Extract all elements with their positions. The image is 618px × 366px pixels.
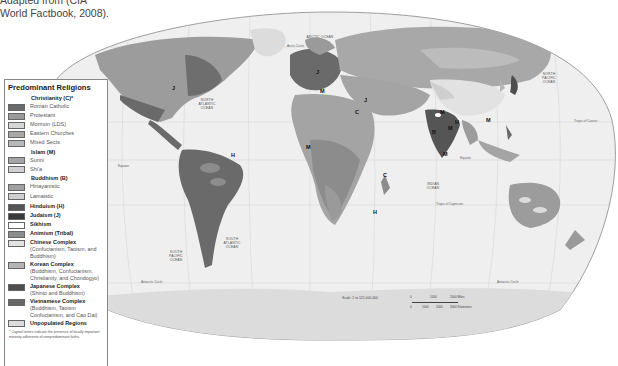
minority-letter: C <box>355 109 359 115</box>
scale-mile-tick: 2000 Miles <box>450 295 465 299</box>
legend-sublabel: (Buddhism, Taoism Confucianism, and Cao … <box>30 305 104 318</box>
legend-sublabel: (Confucianism, Taoism, and Buddhism) <box>30 246 104 259</box>
legend-swatch <box>8 320 25 327</box>
label-tropic-of-cancer: Tropic of Cancer <box>574 119 597 123</box>
legend-swatch <box>8 222 25 229</box>
legend-label: Protestant <box>30 112 55 119</box>
legend-swatch <box>8 204 25 211</box>
legend-item: Lamaistic <box>8 193 104 201</box>
map-scale: Scale: 1 to 121,000,000 0 1000 2000 Mile… <box>342 294 482 314</box>
ocean-label-arctic: ARCTIC OCEAN <box>306 35 334 39</box>
legend-swatch <box>8 122 25 129</box>
legend-item: Hinayanistic <box>8 183 104 191</box>
legend-label: Chinese Complex (Confucianism, Taoism, a… <box>30 239 104 259</box>
minority-letter: J <box>172 85 175 91</box>
legend-label-text: Chinese Complex <box>30 239 76 245</box>
legend-label: Unpopulated Regions <box>30 320 87 327</box>
legend-item: Sunni <box>8 157 104 165</box>
legend-label: Judaism (J) <box>30 212 61 219</box>
legend-label: Sunni <box>30 157 44 164</box>
legend-item-chinese-complex: Chinese Complex (Confucianism, Taoism, a… <box>8 239 104 259</box>
legend-label: Hinayanistic <box>30 183 60 190</box>
legend-label: Hinduism (H) <box>30 203 64 210</box>
legend-swatch <box>8 213 25 220</box>
ocean-label-south-pacific: SOUTH PACIFIC OCEAN <box>165 250 187 262</box>
legend-label: Vietnamese Complex (Buddhism, Taoism Con… <box>30 298 104 318</box>
legend-sublabel: (Buddhism, Confucianism, Christianity, a… <box>30 268 104 281</box>
legend-item: Protestant <box>8 112 104 120</box>
legend-label-text: Vietnamese Complex <box>30 298 85 304</box>
legend-item-hinduism: Hinduism (H) <box>8 203 104 211</box>
legend-label: Eastern Churches <box>30 130 74 137</box>
legend-group-islam: Islam (M) <box>31 149 104 155</box>
minority-letter: C <box>383 172 387 178</box>
legend-swatch <box>8 113 25 120</box>
map-legend: Predominant Religions Christianity (C)* … <box>4 79 108 366</box>
scale-ratio: Scale: 1 to 121,000,000 <box>342 296 378 300</box>
legend-item-judaism: Judaism (J) <box>8 212 104 220</box>
scale-mile-tick: 0 <box>410 295 412 299</box>
legend-swatch <box>8 262 25 269</box>
legend-swatch <box>8 140 25 147</box>
minority-letter: H <box>231 152 235 158</box>
caption-line-2: World Factbook, 2008). <box>0 7 110 20</box>
legend-swatch <box>8 231 25 238</box>
minority-letter: M <box>320 88 325 94</box>
minority-letter: H <box>373 209 377 215</box>
legend-label: Mixed Sects <box>30 139 60 146</box>
legend-label: Shi'a <box>30 166 42 173</box>
legend-label-text: Japanese Complex <box>30 283 80 289</box>
legend-label: Japanese Complex (Shinto and Buddhism) <box>30 283 85 297</box>
legend-item-sikhism: Sikhism <box>8 221 104 229</box>
minority-letter: J <box>364 97 367 103</box>
scale-km-tick: 3000 Kilometers <box>450 305 472 309</box>
legend-swatch <box>8 284 25 291</box>
map-source-caption: Adapted from (CIA World Factbook, 2008). <box>0 0 110 20</box>
legend-label: Korean Complex (Buddhism, Confucianism, … <box>30 261 104 281</box>
legend-label-text: Korean Complex <box>30 261 74 267</box>
minority-letter: M <box>443 151 448 157</box>
legend-item: Shi'a <box>8 166 104 174</box>
legend-item-japanese-complex: Japanese Complex (Shinto and Buddhism) <box>8 283 104 297</box>
scale-km-tick: 0 <box>410 305 412 309</box>
minority-letter: M <box>440 109 445 115</box>
ocean-label-indian: INDIAN OCEAN <box>423 182 443 190</box>
legend-title: Predominant Religions <box>8 83 104 92</box>
legend-item-vietnamese-complex: Vietnamese Complex (Buddhism, Taoism Con… <box>8 298 104 318</box>
minority-letter: J <box>316 69 319 75</box>
minority-letter: H <box>455 119 459 125</box>
minority-letter: M <box>306 144 311 150</box>
legend-swatch <box>8 166 25 173</box>
scale-bar <box>412 302 458 303</box>
ocean-label-north-pacific: NORTH PACIFIC OCEAN <box>538 72 560 84</box>
legend-footnote: * Capital letters indicate the presence … <box>8 330 104 339</box>
legend-group-christianity: Christianity (C)* <box>31 95 104 101</box>
scale-km-tick: 1000 <box>422 305 429 309</box>
ocean-label-south-atlantic: SOUTH ATLANTIC OCEAN <box>220 237 244 249</box>
legend-label: Sikhism <box>30 221 51 228</box>
legend-label: Lamaistic <box>30 193 53 200</box>
legend-sublabel: (Shinto and Buddhism) <box>30 290 85 297</box>
legend-swatch <box>8 157 25 164</box>
legend-item: Roman Catholic <box>8 103 104 111</box>
scale-mile-tick: 1000 <box>430 295 437 299</box>
legend-swatch <box>8 131 25 138</box>
ocean-label-north-atlantic: NORTH ATLANTIC OCEAN <box>196 98 218 110</box>
legend-group-buddhism: Buddhism (B) <box>31 175 104 181</box>
legend-item: Mixed Sects <box>8 139 104 147</box>
legend-swatch <box>8 104 25 111</box>
legend-item: Mormon (LDS) <box>8 121 104 129</box>
legend-label: Animism (Tribal) <box>30 230 73 237</box>
legend-item-korean-complex: Korean Complex (Buddhism, Confucianism, … <box>8 261 104 281</box>
legend-label: Mormon (LDS) <box>30 121 66 128</box>
minority-letter: M <box>486 117 491 123</box>
label-antarctic-circle-west: Antarctic Circle <box>141 280 162 284</box>
label-equator-west: Equator <box>118 164 129 168</box>
label-arctic-circle: Arctic Circle <box>287 44 304 48</box>
scale-km-tick: 2000 <box>436 305 443 309</box>
legend-item: Eastern Churches <box>8 130 104 138</box>
minority-letter: B <box>432 129 436 135</box>
legend-item-unpopulated: Unpopulated Regions <box>8 320 104 328</box>
legend-swatch <box>8 184 25 191</box>
label-antarctic-circle-east: Antarctic Circle <box>497 280 518 284</box>
